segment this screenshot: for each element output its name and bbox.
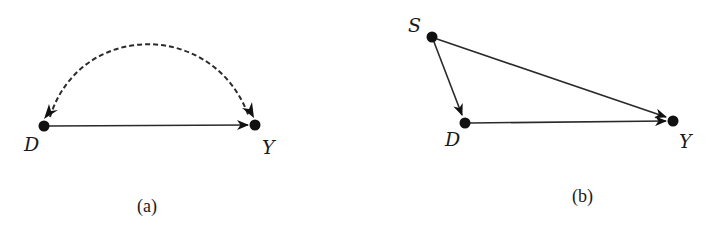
label-y: Y — [679, 130, 694, 152]
edge-s-to-d — [434, 42, 462, 115]
node-y — [250, 120, 261, 131]
caption-a: (a) — [137, 196, 157, 217]
node-y — [668, 116, 679, 127]
panel-b: S D Y (b) — [408, 14, 694, 207]
panel-a: D Y (a) — [23, 44, 277, 217]
node-d — [460, 118, 471, 129]
label-s: S — [408, 14, 421, 36]
bidirected-edge-d-y-dashed — [50, 44, 249, 117]
caption-b: (b) — [572, 186, 593, 207]
node-d — [39, 121, 50, 132]
label-d: D — [444, 128, 460, 150]
edge-d-to-y — [470, 121, 666, 123]
causal-diagram-figure: D Y (a) S D Y (b) — [0, 0, 707, 226]
edge-s-to-y — [437, 39, 666, 117]
edge-d-to-y — [48, 125, 248, 126]
node-s — [427, 32, 438, 43]
label-d: D — [23, 133, 39, 155]
label-y: Y — [262, 136, 277, 158]
